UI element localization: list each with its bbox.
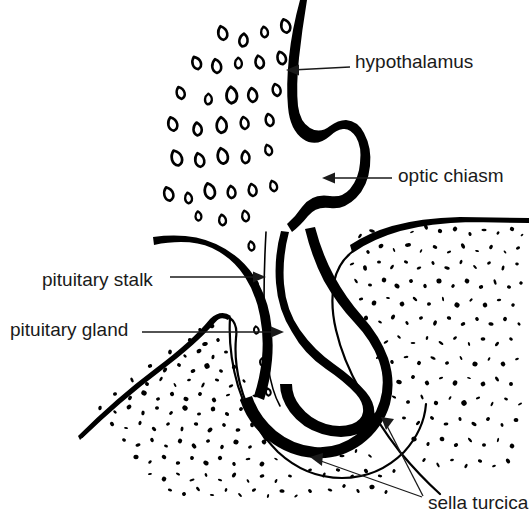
label-pituitary-stalk: pituitary stalk xyxy=(42,269,153,290)
pituitary-anatomy-figure: hypothalamusoptic chiasmpituitary stalkp… xyxy=(0,0,529,519)
label-pituitary-gland: pituitary gland xyxy=(10,319,128,340)
label-hypothalamus: hypothalamus xyxy=(355,51,473,72)
label-optic-chiasm: optic chiasm xyxy=(398,165,504,186)
stipple-dot xyxy=(411,342,416,344)
label-sella-turcica: sella turcica xyxy=(428,492,529,513)
anatomy-diagram-root: hypothalamusoptic chiasmpituitary stalkp… xyxy=(0,0,529,519)
